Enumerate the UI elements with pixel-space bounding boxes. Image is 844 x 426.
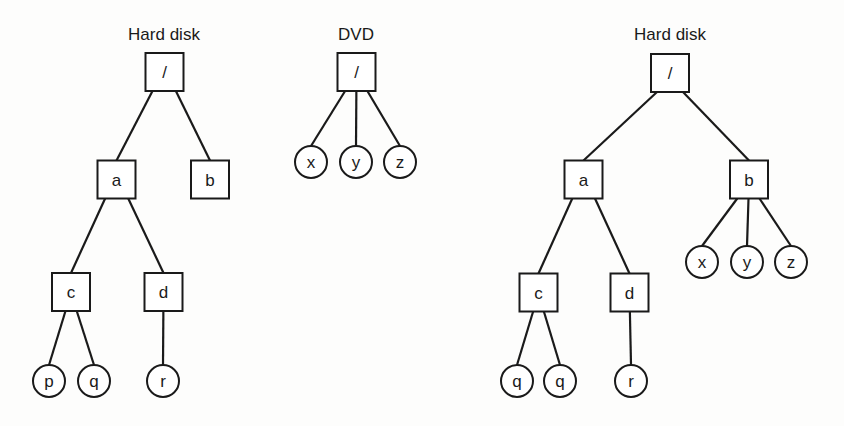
edge-c-q2 — [544, 312, 560, 366]
node-label: x — [307, 153, 316, 172]
file-system-mount-diagram: Hard disk/abcdpqrDVD/xyzHard disk/abxyzc… — [0, 0, 844, 426]
edge-root-z — [367, 91, 400, 146]
file-node-z: z — [384, 146, 416, 178]
file-node-r: r — [147, 365, 179, 397]
node-label: q — [89, 372, 98, 391]
tree-dvd: DVD/xyz — [295, 25, 416, 178]
file-node-r: r — [615, 365, 647, 397]
edge-a-c — [539, 199, 573, 274]
directory-node-root: / — [146, 53, 184, 91]
edge-a-c — [71, 199, 105, 274]
node-label: / — [668, 64, 673, 83]
tree-title: Hard disk — [128, 25, 200, 44]
directory-node-a: a — [98, 161, 136, 199]
node-label: q — [555, 372, 564, 391]
file-node-y: y — [340, 146, 372, 178]
edge-c-q1 — [517, 312, 533, 366]
node-label: d — [159, 283, 168, 302]
node-label: a — [579, 171, 589, 190]
file-node-z: z — [775, 246, 807, 278]
tree-right: Hard disk/abxyzcdqqr — [501, 25, 807, 397]
edge-root-b — [683, 92, 749, 161]
directory-node-c: c — [520, 274, 558, 312]
node-label: y — [352, 153, 361, 172]
file-node-q1: q — [501, 365, 533, 397]
directory-node-root: / — [338, 53, 376, 91]
directory-node-b: b — [191, 161, 229, 199]
edge-a-d — [595, 199, 630, 274]
file-node-q2: q — [544, 365, 576, 397]
node-label: r — [628, 372, 634, 391]
tree-left: Hard disk/abcdpqr — [33, 25, 229, 397]
directory-node-root: / — [651, 54, 689, 92]
node-label: a — [112, 171, 122, 190]
edge-a-d — [128, 199, 163, 274]
edge-root-a — [117, 91, 153, 161]
file-node-y: y — [731, 246, 763, 278]
node-label: / — [162, 63, 167, 82]
node-label: d — [625, 284, 634, 303]
edge-root-x — [311, 91, 345, 146]
node-label: b — [205, 171, 214, 190]
directory-node-b: b — [730, 161, 768, 199]
edge-b-z — [760, 199, 792, 247]
directory-node-a: a — [565, 161, 603, 199]
file-node-q: q — [78, 365, 110, 397]
node-label: b — [744, 171, 753, 190]
node-label: z — [396, 153, 405, 172]
node-label: / — [354, 63, 359, 82]
directory-node-d: d — [145, 273, 183, 311]
node-label: c — [534, 284, 543, 303]
node-label: y — [743, 253, 752, 272]
edge-b-y — [747, 199, 749, 247]
node-label: z — [787, 253, 796, 272]
tree-title: DVD — [338, 25, 374, 44]
node-label: x — [698, 253, 707, 272]
directory-node-d: d — [611, 274, 649, 312]
directory-node-c: c — [52, 273, 90, 311]
diagram-canvas: Hard disk/abcdpqrDVD/xyzHard disk/abxyzc… — [0, 0, 844, 426]
tree-title: Hard disk — [634, 25, 706, 44]
node-label: r — [160, 372, 166, 391]
file-node-x: x — [686, 246, 718, 278]
node-label: p — [44, 372, 53, 391]
node-label: c — [67, 283, 76, 302]
edge-root-a — [584, 92, 658, 161]
edge-b-x — [702, 199, 737, 247]
edge-d-r — [630, 312, 631, 366]
node-label: q — [512, 372, 521, 391]
file-node-p: p — [33, 365, 65, 397]
edge-c-p — [49, 311, 66, 365]
edge-c-q — [77, 311, 94, 365]
file-node-x: x — [295, 146, 327, 178]
edge-root-b — [176, 91, 210, 161]
